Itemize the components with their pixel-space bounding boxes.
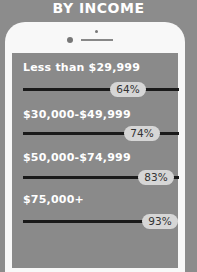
speaker-icon bbox=[81, 39, 113, 41]
slider-track bbox=[23, 88, 179, 91]
slider-track bbox=[23, 220, 153, 223]
income-label: $75,000+ bbox=[23, 193, 84, 206]
sensor-icon bbox=[95, 30, 98, 33]
phone-screen: Less than $29,999 64% $30,000-$49,999 74… bbox=[12, 53, 178, 268]
value-pill: 64% bbox=[110, 82, 146, 97]
value-pill: 93% bbox=[142, 214, 178, 229]
income-label: $50,000-$74,999 bbox=[23, 151, 131, 164]
income-label: $30,000-$49,999 bbox=[23, 108, 131, 121]
camera-icon bbox=[67, 37, 73, 43]
value-pill: 74% bbox=[124, 126, 160, 141]
income-label: Less than $29,999 bbox=[23, 61, 140, 74]
chart-title: BY INCOME bbox=[0, 0, 197, 16]
value-pill: 83% bbox=[138, 170, 174, 185]
